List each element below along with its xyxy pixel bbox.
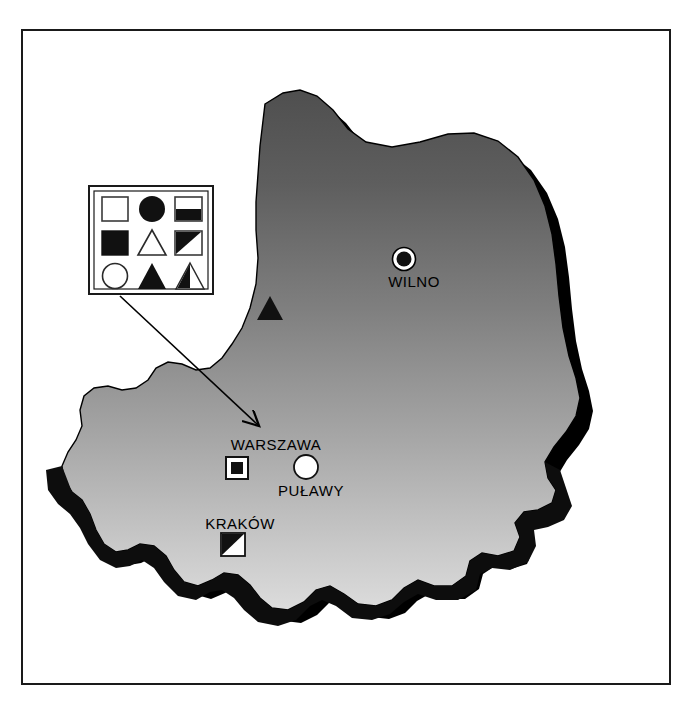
map-figure: WILNO WARSZAWA PUŁAWY KRAKÓW [0, 0, 689, 707]
legend-symbol-square-diagonal-upper-left [175, 231, 202, 255]
city-label-pulawy: PUŁAWY [278, 482, 344, 499]
legend-symbol-open-square [102, 197, 128, 221]
city-label-warszawa: WARSZAWA [231, 436, 322, 453]
landmass-fill [62, 90, 580, 610]
map-canvas: WILNO WARSZAWA PUŁAWY KRAKÓW [0, 0, 689, 707]
legend-symbol-open-circle [103, 264, 128, 289]
legend-symbol-filled-circle [139, 196, 165, 222]
legend-symbol-filled-square [102, 231, 128, 255]
legend-symbol-square-bottom-half [175, 197, 202, 221]
city-label-krakow: KRAKÓW [205, 515, 275, 532]
marker-wilno [393, 248, 416, 271]
marker-krakow [221, 533, 245, 556]
marker-warszawa [226, 457, 248, 479]
marker-pulawy [294, 455, 318, 479]
city-label-wilno: WILNO [388, 273, 440, 290]
symbol-legend [89, 186, 213, 294]
